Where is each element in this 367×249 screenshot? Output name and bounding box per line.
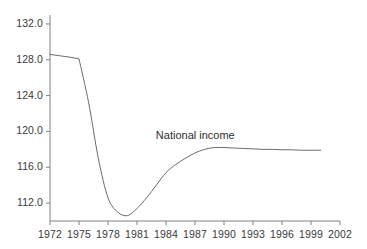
y-tick-label: 116.0	[4, 160, 43, 172]
y-tick-label: 112.0	[4, 196, 43, 208]
line-chart-plot	[0, 0, 367, 249]
x-tick-marks	[50, 221, 340, 225]
series-annotation-label: National income	[156, 129, 235, 141]
axis-group	[50, 15, 340, 221]
y-tick-label: 120.0	[4, 124, 43, 136]
chart-container: 112.0116.0120.0124.0128.0132.0 197219751…	[0, 0, 367, 249]
y-tick-marks	[46, 24, 50, 203]
y-tick-label: 132.0	[4, 17, 43, 29]
y-tick-label: 128.0	[4, 53, 43, 65]
y-tick-label: 124.0	[4, 89, 43, 101]
x-tick-label: 2002	[320, 228, 360, 240]
